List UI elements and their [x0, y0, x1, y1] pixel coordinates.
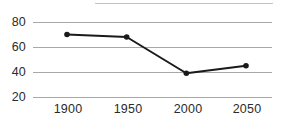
clipped-top-rule — [95, 3, 273, 4]
line-chart-figure: 80 60 40 20 1900 1950 2000 2050 — [0, 0, 281, 127]
data-point-1950 — [124, 34, 130, 40]
series-layer — [33, 22, 272, 97]
y-axis-tick-label-40: 40 — [0, 66, 26, 78]
x-axis-tick-label-1950: 1950 — [105, 103, 151, 116]
x-axis-tick-label-1900: 1900 — [45, 103, 91, 116]
gridline-20 — [33, 97, 272, 98]
data-point-2000 — [184, 70, 190, 76]
x-axis-tick-label-2000: 2000 — [165, 103, 211, 116]
series-line-1 — [67, 35, 246, 74]
x-axis-tick-label-2050: 2050 — [224, 103, 270, 116]
y-axis-tick-label-80: 80 — [0, 16, 26, 28]
y-axis-tick-label-60: 60 — [0, 41, 26, 53]
data-point-2050 — [243, 63, 249, 69]
data-point-1900 — [64, 32, 70, 38]
y-axis-tick-label-20: 20 — [0, 91, 26, 103]
plot-area — [33, 22, 272, 97]
